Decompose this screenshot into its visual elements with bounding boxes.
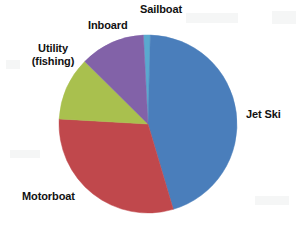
pie-label-motorboat: Motorboat [22, 190, 75, 203]
pie-label-jet-ski: Jet Ski [246, 108, 281, 121]
pie-label-utility-line2: (fishing) [32, 55, 74, 67]
pie-label-inboard: Inboard [88, 19, 128, 32]
pie-label-utility-fishing: Utility (fishing) [17, 42, 89, 67]
pie-chart: Sailboat Inboard Utility (fishing) Motor… [0, 0, 305, 231]
pie-label-sailboat: Sailboat [140, 3, 182, 16]
pie-label-utility-line1: Utility [38, 42, 68, 54]
